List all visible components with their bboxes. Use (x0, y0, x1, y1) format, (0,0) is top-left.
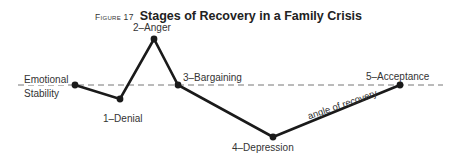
point-depression (270, 134, 277, 141)
point-acceptance (397, 82, 404, 89)
point-start (72, 82, 79, 89)
label-bargaining: 3–Bargaining (183, 72, 242, 83)
label-emotional: Emotional (24, 74, 68, 85)
point-anger (151, 36, 158, 43)
label-denial: 1–Denial (103, 113, 142, 124)
label-acceptance: 5–Acceptance (366, 71, 429, 82)
label-stability: Stability (24, 88, 59, 99)
point-denial (117, 96, 124, 103)
label-anger: 2–Anger (133, 22, 171, 33)
label-depression: 4–Depression (232, 142, 294, 153)
point-bargaining (175, 82, 182, 89)
